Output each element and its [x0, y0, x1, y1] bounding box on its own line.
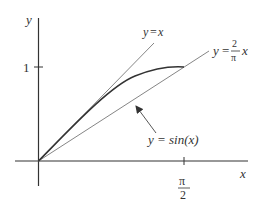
- x-tick-label-pi-half: π 2: [178, 174, 190, 202]
- x-tick-denominator: 2: [180, 188, 186, 202]
- y-axis-label: y: [24, 12, 32, 27]
- x-axis-label: x: [239, 166, 246, 181]
- diagram-canvas: y x 1 π 2 y = x y = 2 π x y = sin(x): [0, 0, 261, 205]
- svg-text:2: 2: [232, 38, 237, 49]
- svg-text:π: π: [231, 52, 236, 63]
- svg-text:=: =: [150, 25, 157, 39]
- svg-text:x: x: [157, 25, 164, 39]
- sine-pointer-arrow: [136, 106, 156, 133]
- label-y-equals-2-over-pi-x: y = 2 π x: [211, 38, 248, 63]
- y-tick-label-1: 1: [23, 60, 30, 75]
- svg-text:y: y: [142, 25, 149, 39]
- svg-text:=: =: [222, 43, 229, 58]
- x-tick-numerator: π: [179, 174, 185, 188]
- svg-text:x: x: [241, 43, 248, 58]
- label-y-equals-x: y = x: [142, 25, 164, 39]
- svg-text:y: y: [211, 43, 219, 58]
- label-y-equals-sin-x: y = sin(x): [146, 132, 199, 147]
